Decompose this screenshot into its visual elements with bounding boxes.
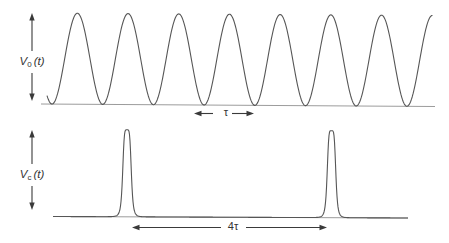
- sinusoid-curve: [47, 13, 433, 106]
- vc-amplitude-arrow-up-head: [29, 130, 34, 138]
- v0-amplitude-arrow-down-head: [29, 94, 34, 102]
- four-tau-spacing-annotation: 4τ: [228, 220, 238, 231]
- four-tau-arrow-left-head: [132, 225, 140, 230]
- vc-label-arg: (t): [33, 168, 44, 180]
- tau-arrow-right-head: [247, 111, 255, 116]
- waveform-canvas: [0, 0, 449, 243]
- vc-label-base: V: [20, 168, 28, 180]
- v0-label-arg: (t): [34, 55, 45, 67]
- v0-label-sub: 0: [27, 60, 31, 69]
- top-time-baseline: [41, 104, 435, 107]
- vc-label-sub: c: [27, 173, 31, 182]
- vc-amplitude-arrow-down-head: [29, 203, 34, 211]
- tau-period-annotation: τ: [224, 107, 228, 118]
- tau-arrow-left-head: [194, 111, 202, 116]
- v0-label: V0(t): [18, 56, 47, 68]
- v0-amplitude-arrow-up-head: [29, 13, 34, 21]
- v0-label-base: V: [20, 55, 28, 67]
- vc-label: Vc(t): [18, 169, 47, 181]
- four-tau-arrow-right-head: [320, 225, 328, 230]
- waveform-figure: V0(t) Vc(t) τ 4τ: [0, 0, 449, 243]
- pulse-train-curve: [53, 130, 408, 218]
